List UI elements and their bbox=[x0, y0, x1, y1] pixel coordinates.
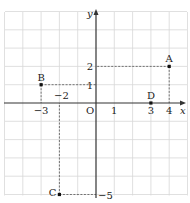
point-a bbox=[168, 65, 171, 68]
y-tick-label: 2 bbox=[87, 61, 93, 72]
point-label-d: D bbox=[147, 90, 155, 101]
x-tick-label: 4 bbox=[166, 105, 172, 116]
point-label-b: B bbox=[37, 72, 44, 83]
coordinate-plane-svg: xyO−3−213421−5ABCD bbox=[0, 0, 190, 203]
point-label-c: C bbox=[49, 187, 57, 198]
coordinate-plane: xyO−3−213421−5ABCD bbox=[0, 0, 190, 203]
x-tick-label: −2 bbox=[54, 90, 69, 101]
y-tick-label: 1 bbox=[87, 80, 93, 91]
x-axis-label: x bbox=[180, 105, 186, 116]
point-c bbox=[58, 193, 61, 196]
x-tick-label: 1 bbox=[111, 105, 117, 116]
point-b bbox=[40, 83, 43, 86]
origin-label: O bbox=[86, 105, 94, 116]
point-label-a: A bbox=[165, 53, 174, 64]
x-tick-label: −3 bbox=[34, 105, 49, 116]
y-axis-label: y bbox=[86, 8, 93, 19]
point-d bbox=[149, 101, 152, 104]
x-tick-label: 3 bbox=[148, 105, 154, 116]
y-tick-label: −5 bbox=[98, 190, 113, 201]
y-axis-arrow-icon bbox=[94, 9, 99, 15]
